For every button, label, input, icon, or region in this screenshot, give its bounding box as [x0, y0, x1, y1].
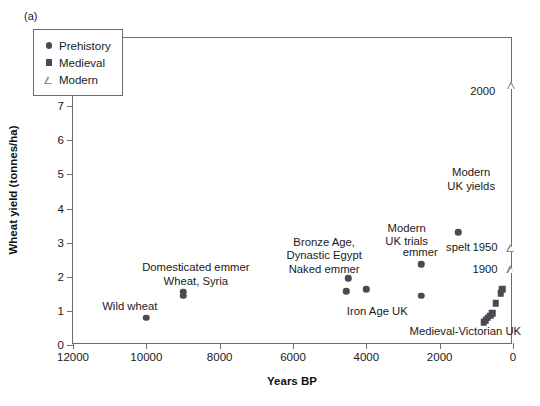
x-tick [73, 343, 74, 349]
y-tick-label: 2 [58, 271, 64, 283]
y-tick [67, 106, 73, 107]
legend-item-prehistory[interactable]: Prehistory [42, 37, 111, 54]
triangle-marker-icon [507, 265, 515, 273]
y-tick-label: 7 [58, 100, 64, 112]
chart-annotation: Medieval-Victorian UK [410, 325, 522, 339]
chart-annotation: 2000 [470, 85, 495, 99]
chart-annotation: 1950 [472, 241, 497, 255]
data-point-prehistory [143, 314, 150, 321]
y-tick-label: 0 [58, 339, 64, 351]
y-tick-label: 1 [58, 305, 64, 317]
circle-marker-icon [418, 292, 425, 299]
legend-item-modern[interactable]: Modern [42, 71, 111, 88]
y-tick-label: 6 [58, 134, 64, 146]
y-tick-label: 3 [58, 237, 64, 249]
x-tick-label: 8000 [207, 351, 233, 363]
legend-item-label: Prehistory [59, 40, 111, 52]
panel-label: (a) [24, 10, 37, 22]
x-tick [366, 343, 367, 349]
y-axis-title: Wheat yield (tonnes/ha) [7, 125, 19, 254]
circle-marker-icon [143, 314, 150, 321]
triangle-legend-icon [42, 76, 56, 84]
y-tick-label: 5 [58, 168, 64, 180]
chart-annotation: Bronze Age, Dynastic Egypt Naked emmer [286, 236, 361, 277]
figure-panel: (a) Wheat yield (tonnes/ha) Years BP 012… [0, 0, 540, 406]
circle-marker-icon [343, 288, 350, 295]
data-point-modern [507, 265, 515, 273]
chart-annotation: spelt [446, 241, 470, 255]
circle-marker-icon [418, 261, 425, 268]
y-tick [67, 209, 73, 210]
x-tick [220, 343, 221, 349]
triangle-marker-icon [507, 244, 515, 252]
y-tick [67, 243, 73, 244]
x-tick [293, 343, 294, 349]
chart-annotation: Wild wheat [102, 300, 157, 314]
y-tick-label: 4 [58, 203, 64, 215]
data-point-prehistory [180, 293, 187, 300]
circle-marker-icon [363, 286, 370, 293]
y-tick [67, 277, 73, 278]
x-tick-label: 2000 [427, 351, 453, 363]
x-tick [440, 343, 441, 349]
data-point-prehistory [418, 292, 425, 299]
circle-marker-icon [455, 229, 462, 236]
x-tick-label: 10000 [130, 351, 162, 363]
data-point-medieval [489, 310, 496, 317]
y-tick [67, 311, 73, 312]
data-point-prehistory [418, 261, 425, 268]
chart-annotation: Modern UK trials [385, 222, 428, 249]
y-tick [67, 140, 73, 141]
chart-annotation: Domesticated emmer Wheat, Syria [142, 261, 249, 288]
data-point-medieval [493, 300, 500, 307]
data-point-prehistory [343, 288, 350, 295]
data-point-modern [507, 244, 515, 252]
x-axis-title: Years BP [267, 375, 317, 387]
x-tick-label: 4000 [354, 351, 380, 363]
data-point-prehistory [363, 286, 370, 293]
data-point-modern [508, 81, 516, 89]
circle-legend-icon [42, 42, 56, 49]
legend-item-label: Medieval [59, 57, 105, 69]
x-tick-label: 6000 [280, 351, 306, 363]
chart-legend: PrehistoryMedievalModern [33, 29, 123, 96]
legend-item-label: Modern [59, 74, 98, 86]
square-legend-icon [42, 59, 56, 66]
x-tick-label: 12000 [57, 351, 89, 363]
x-tick [146, 343, 147, 349]
square-marker-icon [489, 310, 496, 317]
y-tick [67, 174, 73, 175]
x-tick-label: 0 [510, 351, 516, 363]
chart-annotation: 1900 [472, 263, 497, 277]
square-marker-icon [493, 300, 500, 307]
triangle-marker-icon [508, 81, 516, 89]
circle-marker-icon [180, 293, 187, 300]
plot-area: 0123456789 120001000080006000400020000 W… [72, 37, 512, 344]
data-point-medieval [499, 286, 506, 293]
x-tick [513, 343, 514, 349]
chart-annotation: Modern UK yields [447, 166, 495, 193]
square-marker-icon [499, 286, 506, 293]
data-point-prehistory [455, 229, 462, 236]
chart-annotation: emmer [403, 246, 438, 260]
legend-item-medieval[interactable]: Medieval [42, 54, 111, 71]
chart-annotation: Iron Age UK [347, 305, 408, 319]
